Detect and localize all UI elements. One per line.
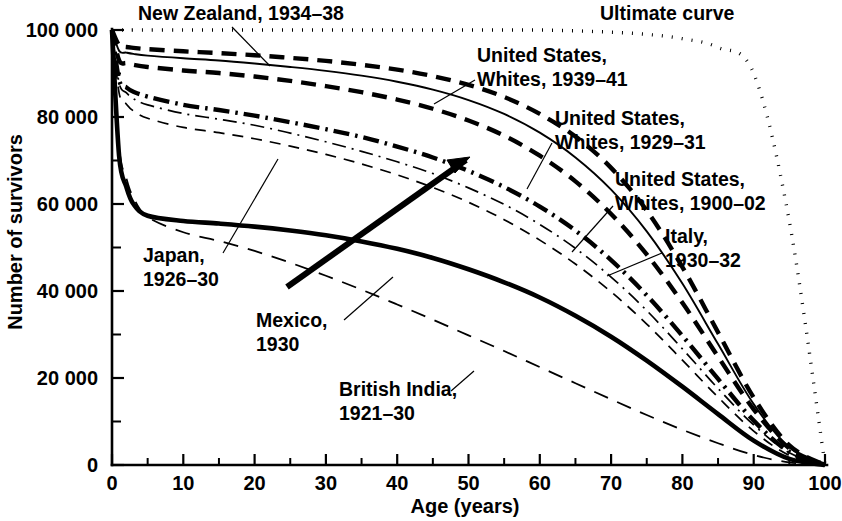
annotation-line: Whites, 1939–41	[477, 68, 628, 90]
x-tick-label: 20	[243, 472, 265, 494]
x-tick-label: 50	[457, 472, 479, 494]
annotation-line: Whites, 1929–31	[555, 131, 706, 153]
annotation-line: Mexico,	[256, 309, 328, 331]
annotation-line: United States,	[477, 44, 607, 66]
y-tick-label: 40 000	[37, 280, 98, 302]
y-tick-label: 20 000	[37, 367, 98, 389]
x-tick-label: 90	[743, 472, 765, 494]
y-tick-label: 100 000	[26, 19, 98, 41]
annotation-line: New Zealand, 1934–38	[138, 2, 344, 24]
annotation-line: 1926–30	[143, 268, 219, 290]
x-tick-label: 80	[671, 472, 693, 494]
annotation-line: Japan,	[143, 244, 205, 266]
x-tick-label: 70	[600, 472, 622, 494]
x-tick-label: 30	[315, 472, 337, 494]
y-tick-label: 80 000	[37, 106, 98, 128]
annotation-line: Ultimate curve	[600, 2, 735, 24]
annotation-ultimate-curve: Ultimate curve	[600, 2, 735, 24]
y-tick-label: 60 000	[37, 193, 98, 215]
annotation-line: Italy,	[665, 225, 708, 247]
annotation-line: 1921–30	[339, 402, 415, 424]
annotation-line: United States,	[555, 107, 685, 129]
annotation-line: British India,	[339, 378, 457, 400]
y-tick-label: 0	[87, 454, 98, 476]
figure-root: 0102030405060708090100 020 00040 00060 0…	[0, 0, 842, 521]
survival-curve-chart: 0102030405060708090100 020 00040 00060 0…	[0, 0, 842, 521]
annotation-line: United States,	[615, 168, 745, 190]
annotation-new-zealand: New Zealand, 1934–38	[138, 2, 344, 24]
annotation-line: 1930–32	[665, 249, 741, 271]
x-tick-label: 40	[386, 472, 408, 494]
x-tick-label: 10	[172, 472, 194, 494]
x-axis-title: Age (years)	[411, 495, 520, 517]
x-tick-label: 100	[808, 472, 841, 494]
x-tick-label: 0	[106, 472, 117, 494]
annotation-line: Whites, 1900–02	[615, 192, 766, 214]
x-tick-label: 60	[529, 472, 551, 494]
annotation-line: 1930	[256, 333, 300, 355]
y-axis-title: Number of survivors	[4, 134, 26, 330]
